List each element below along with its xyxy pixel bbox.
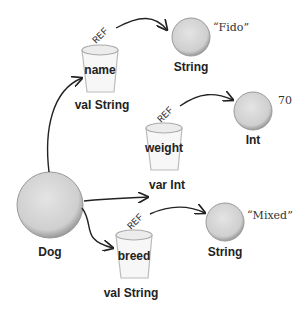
name-property-label: name [84,63,116,77]
name-reference-cup: name REF val String [75,26,130,112]
mixed-type-label: String [208,245,243,259]
dog-object-circle [17,172,83,238]
mixed-value: “Mixed” [247,209,293,222]
fido-type-label: String [174,60,209,74]
object-diagram: Dog name REF val String “Fido” String we… [0,0,308,312]
name-ref-label: REF [90,26,111,47]
name-type-label: val String [75,98,130,112]
int-object: 70 Int [234,92,292,147]
dog-to-breed-arrow [82,208,113,248]
weight-ref-arrow [180,95,233,106]
name-ref-arrow [116,18,167,30]
weight-property-label: weight [144,141,183,155]
breed-property-label: breed [118,249,151,263]
breed-reference-cup: breed REF val String [104,212,159,300]
breed-ref-label: REF [125,212,146,233]
weight-type-label: var Int [149,178,185,192]
dog-label: Dog [38,245,61,259]
weight-ref-label: REF [155,105,176,126]
fido-value: “Fido” [213,21,249,34]
int-value: 70 [278,94,292,107]
dog-object: Dog [17,172,83,259]
weight-reference-cup: weight REF var Int [144,105,185,192]
breed-ref-arrow [150,207,205,214]
fido-string-object: “Fido” String [172,18,249,74]
dog-to-weight-arrow [84,197,148,201]
int-type-label: Int [246,133,261,147]
breed-type-label: val String [104,286,159,300]
mixed-string-object: “Mixed” String [206,203,293,259]
dog-to-name-arrow [48,78,82,172]
